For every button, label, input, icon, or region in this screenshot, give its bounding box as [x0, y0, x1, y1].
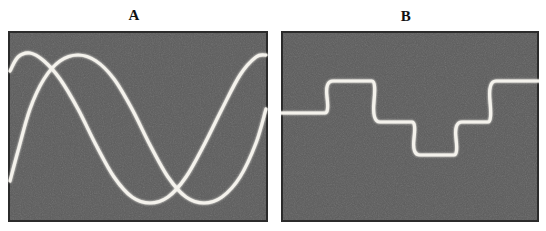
oscilloscope-screen-b	[281, 31, 539, 222]
waveform-svg-a	[8, 31, 268, 222]
panel-label-b: B	[398, 9, 414, 24]
oscilloscope-screen-a	[8, 31, 268, 222]
panel-label-a: A	[126, 8, 142, 23]
figure-root: A	[0, 0, 546, 231]
waveform-svg-b	[281, 31, 539, 222]
screen-noise-b	[281, 31, 539, 222]
screen-noise-a	[8, 31, 268, 222]
